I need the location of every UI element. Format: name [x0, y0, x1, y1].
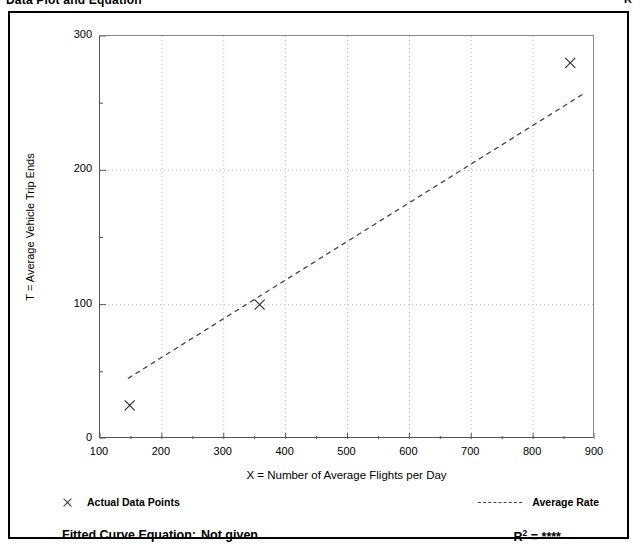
page-title: Data Plot and Equation: [6, 0, 142, 7]
legend-label-actual-data-points: Actual Data Points: [87, 496, 180, 508]
y-tick-label: 300: [52, 28, 92, 40]
x-tick-label: 700: [448, 445, 492, 457]
y-tick-label: 0: [52, 431, 92, 443]
plot-area: [99, 35, 594, 438]
legend-item-average-rate: Average Rate: [478, 496, 599, 508]
x-tick-label: 500: [325, 445, 369, 457]
legend-label-average-rate: Average Rate: [532, 496, 599, 508]
x-tick-label: 800: [510, 445, 554, 457]
figure-frame: T = Average Vehicle Trip Ends 1002003004…: [8, 11, 629, 539]
r-squared-label: R: [514, 530, 523, 544]
fitted-curve-equation: Fitted Curve Equation:Not given: [62, 528, 258, 542]
legend: Actual Data Points Average Rate: [10, 496, 631, 516]
legend-item-actual-data-points: Actual Data Points: [62, 496, 180, 508]
header-strip: Data Plot and Equation R: [0, 0, 640, 11]
r-squared-equals: =: [527, 530, 541, 544]
x-tick-label: 400: [263, 445, 307, 457]
y-tick-label: 200: [52, 162, 92, 174]
x-tick-label: 100: [77, 445, 121, 457]
y-tick-label: 100: [52, 297, 92, 309]
x-tick-label: 300: [201, 445, 245, 457]
equation-row: Fitted Curve Equation:Not given R2 = ***…: [10, 528, 631, 547]
dashed-line-icon: [478, 502, 522, 503]
x-tick-label: 900: [572, 445, 616, 457]
x-tick-label: 600: [386, 445, 430, 457]
data-layer: [100, 36, 595, 439]
x-tick-label: 200: [139, 445, 183, 457]
r-squared-value: R2 = ****: [514, 528, 561, 544]
fitted-curve-label: Fitted Curve Equation:: [62, 528, 196, 542]
r-squared-stars: ****: [542, 530, 561, 544]
cross-marker-icon: [62, 497, 73, 508]
header-right-note: R: [624, 0, 632, 5]
fitted-curve-value: Not given: [196, 528, 258, 542]
y-axis-title: T = Average Vehicle Trip Ends: [24, 153, 36, 300]
x-axis-title: X = Number of Average Flights per Day: [99, 469, 594, 481]
